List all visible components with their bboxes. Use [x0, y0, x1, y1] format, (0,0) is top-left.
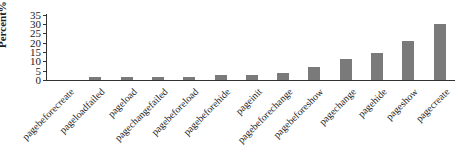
x-tick-label-pagecreate: pagecreate: [413, 86, 451, 124]
y-axis-line: [46, 14, 47, 81]
x-tick-label-pagebeforechange: pagebeforechange: [235, 86, 294, 145]
x-tick-label-pagebeforecreate: pagebeforecreate: [20, 86, 76, 142]
y-tick-label: 5: [20, 66, 41, 76]
bar-pagebeforechange: [277, 73, 289, 80]
y-tick: [43, 61, 46, 62]
bar-pagebeforeshow: [308, 67, 320, 80]
bar-pageshow: [402, 41, 414, 80]
bar-pagechange: [340, 59, 352, 80]
y-tick: [43, 71, 46, 72]
bar-pageloadfailed: [89, 77, 101, 80]
bar-pagecreate: [434, 24, 446, 80]
y-tick: [43, 43, 46, 44]
x-axis-line: [46, 80, 455, 81]
y-tick: [43, 33, 46, 34]
bar-pagebeforeload: [183, 77, 195, 80]
y-tick-label: 20: [20, 38, 41, 48]
y-tick: [43, 15, 46, 16]
bar-pageload: [121, 77, 133, 80]
bar-pagebeforehide: [215, 75, 227, 80]
y-axis-label: Percent%: [0, 1, 8, 48]
bar-chart: Percent% 05101520253035 pagebeforecreate…: [0, 0, 461, 160]
bar-pagechangefailed: [152, 77, 164, 80]
y-tick-label: 35: [20, 10, 41, 20]
bar-pageinit: [246, 75, 258, 80]
y-tick: [43, 52, 46, 53]
y-tick: [43, 24, 46, 25]
y-tick: [43, 80, 46, 81]
bar-pagehide: [371, 53, 383, 80]
